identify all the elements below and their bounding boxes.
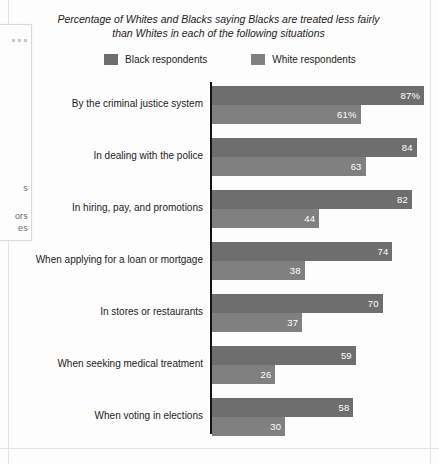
plot-area: By the criminal justice system87%61%In d…: [0, 82, 439, 434]
bar-group: When seeking medical treatment5926: [0, 342, 439, 394]
bar-pair: 8463: [212, 138, 417, 176]
legend-item-black-respondents: Black respondents: [104, 54, 207, 65]
legend-swatch-icon: [251, 54, 265, 65]
bar-pair: 5830: [212, 398, 353, 436]
bar-value-label: 82: [397, 195, 412, 205]
category-label: By the criminal justice system: [3, 98, 203, 109]
bar-white-respondents: 38: [212, 261, 305, 280]
legend-swatch-icon: [104, 54, 118, 65]
legend-label: Black respondents: [125, 54, 207, 65]
bar-white-respondents: 37: [212, 313, 302, 332]
bar-chart: Percentage of Whites and Blacks saying B…: [0, 0, 439, 464]
bar-group: In hiring, pay, and promotions8244: [0, 186, 439, 238]
bar-pair: 7438: [212, 242, 392, 280]
bar-group: By the criminal justice system87%61%: [0, 82, 439, 134]
bar-group: In dealing with the police8463: [0, 134, 439, 186]
bar-pair: 5926: [212, 346, 356, 384]
bar-pair: 8244: [212, 190, 412, 228]
bar-black-respondents: 58: [212, 398, 353, 417]
bar-black-respondents: 82: [212, 190, 412, 209]
bar-black-respondents: 84: [212, 138, 417, 157]
category-label: In stores or restaurants: [3, 306, 203, 317]
bar-value-label: 74: [377, 247, 392, 257]
legend-label: White respondents: [272, 54, 355, 65]
bar-black-respondents: 59: [212, 346, 356, 365]
bar-black-respondents: 74: [212, 242, 392, 261]
bar-white-respondents: 44: [212, 209, 319, 228]
bar-value-label: 37: [287, 318, 302, 328]
category-label: When voting in elections: [3, 410, 203, 421]
bar-black-respondents: 87%: [212, 86, 424, 105]
bar-pair: 87%61%: [212, 86, 424, 124]
category-label: When applying for a loan or mortgage: [3, 254, 203, 265]
bar-group: When voting in elections5830: [0, 394, 439, 446]
bar-value-label: 59: [341, 351, 356, 361]
bar-pair: 7037: [212, 294, 383, 332]
bar-value-label: 38: [290, 266, 305, 276]
bar-value-label: 70: [368, 299, 383, 309]
bar-value-label: 63: [351, 162, 366, 172]
chart-legend: Black respondents White respondents: [104, 54, 356, 65]
bar-white-respondents: 63: [212, 157, 366, 176]
bar-white-respondents: 30: [212, 417, 285, 436]
category-label: When seeking medical treatment: [3, 358, 203, 369]
bar-value-label: 26: [260, 370, 275, 380]
bar-value-label: 30: [270, 422, 285, 432]
bar-white-respondents: 61%: [212, 105, 361, 124]
bar-value-label: 61%: [337, 110, 361, 120]
category-label: In hiring, pay, and promotions: [3, 202, 203, 213]
bar-value-label: 44: [304, 214, 319, 224]
bar-value-label: 58: [338, 403, 353, 413]
chart-title: Percentage of Whites and Blacks saying B…: [46, 12, 391, 40]
bar-black-respondents: 70: [212, 294, 383, 313]
bar-value-label: 84: [402, 143, 417, 153]
bar-white-respondents: 26: [212, 365, 275, 384]
legend-item-white-respondents: White respondents: [251, 54, 355, 65]
bar-group: When applying for a loan or mortgage7438: [0, 238, 439, 290]
bar-value-label: 87%: [400, 91, 424, 101]
bar-group: In stores or restaurants7037: [0, 290, 439, 342]
category-label: In dealing with the police: [3, 150, 203, 161]
